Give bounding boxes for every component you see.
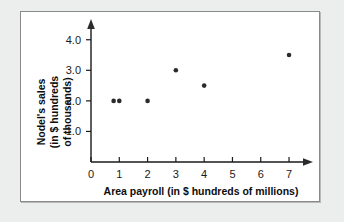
- x-tick-label: 7: [286, 168, 292, 180]
- chart-panel: 1.02.03.04.0 01234567 Nodel's sales (in …: [20, 11, 320, 202]
- x-axis-arrow-icon: [303, 158, 313, 166]
- y-axis-title-line-2: (in $ hundreds: [48, 76, 60, 148]
- x-tick-group: 01234567: [88, 157, 292, 180]
- data-point: [287, 53, 292, 58]
- y-axis-title-line-3: of thousands): [61, 77, 73, 146]
- data-point: [145, 99, 150, 104]
- x-tick-label: 3: [173, 168, 179, 180]
- data-point: [174, 68, 179, 73]
- data-point: [202, 83, 207, 88]
- figure-root: 1.02.03.04.0 01234567 Nodel's sales (in …: [0, 0, 344, 222]
- data-point: [117, 99, 122, 104]
- y-axis-title-line-1: Nodel's sales: [35, 78, 47, 145]
- x-tick-label: 2: [145, 168, 151, 180]
- x-tick-label: 1: [116, 168, 122, 180]
- x-tick-label: 0: [88, 168, 94, 180]
- x-tick-label: 6: [258, 168, 264, 180]
- y-axis: [87, 19, 95, 162]
- y-tick-label: 3.0: [66, 64, 81, 76]
- scatter-plot: 1.02.03.04.0 01234567 Nodel's sales (in …: [21, 12, 319, 201]
- x-tick-label: 4: [201, 168, 207, 180]
- x-tick-label: 5: [229, 168, 235, 180]
- y-axis-title: Nodel's sales (in $ hundreds of thousand…: [35, 76, 73, 148]
- y-tick-label: 4.0: [66, 34, 81, 46]
- x-axis: [91, 158, 313, 166]
- y-axis-arrow-icon: [87, 19, 95, 29]
- data-point-group: [111, 53, 291, 103]
- x-axis-title: Area payroll (in $ hundreds of millions): [104, 185, 299, 197]
- data-point: [111, 99, 116, 104]
